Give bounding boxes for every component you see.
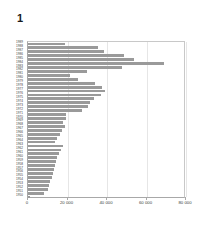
bar — [28, 54, 124, 57]
bar-row — [28, 129, 184, 132]
bar-row — [28, 62, 184, 65]
bar-row — [28, 94, 184, 97]
bar — [28, 133, 60, 136]
bar-row — [28, 90, 184, 93]
bar — [28, 196, 30, 199]
bar — [28, 113, 66, 116]
bar-row — [28, 125, 184, 128]
bar-row — [28, 58, 184, 61]
bar-row — [28, 184, 184, 187]
bar — [28, 97, 94, 100]
bar — [28, 184, 49, 187]
bar-row — [28, 137, 184, 140]
bar-row — [28, 54, 184, 57]
bar — [28, 43, 65, 46]
bar — [28, 58, 134, 61]
bar-row — [28, 117, 184, 120]
bar-row — [28, 74, 184, 77]
bar — [28, 180, 50, 183]
bar-row — [28, 149, 184, 152]
bar-row — [28, 86, 184, 89]
bar — [28, 50, 104, 53]
bar-row — [28, 156, 184, 159]
bar — [28, 172, 53, 175]
bar — [28, 105, 88, 108]
chart-figure: 1 19891988198719861985198419831982198119… — [0, 0, 200, 228]
plot-area — [27, 41, 185, 198]
bar — [28, 125, 65, 128]
bar-row — [28, 113, 184, 116]
bar — [28, 192, 44, 195]
bar — [28, 62, 164, 65]
bar — [28, 46, 98, 49]
bar-row — [28, 176, 184, 179]
bar — [28, 101, 90, 104]
bar — [28, 109, 82, 112]
x-tick-label: 60 000 — [139, 200, 152, 206]
bar-row — [28, 141, 184, 144]
bar — [28, 137, 57, 140]
x-tick-label: 0 — [26, 200, 28, 206]
bar-row — [28, 43, 184, 46]
bar-row — [28, 46, 184, 49]
bar-row — [28, 78, 184, 81]
bar — [28, 94, 101, 97]
bar-row — [28, 164, 184, 167]
bar-row — [28, 180, 184, 183]
bar — [28, 152, 59, 155]
bar — [28, 70, 87, 73]
bar — [28, 149, 61, 152]
bar-row — [28, 66, 184, 69]
bar — [28, 145, 63, 148]
x-tick-label: 80 000 — [178, 200, 191, 206]
bar — [28, 74, 70, 77]
bar-row — [28, 188, 184, 191]
bar-row — [28, 70, 184, 73]
bar-row — [28, 168, 184, 171]
bar-row — [28, 172, 184, 175]
y-axis-tick-labels: 1989198819871986198519841983198219811980… — [0, 41, 25, 198]
bar-row — [28, 152, 184, 155]
bar — [28, 82, 95, 85]
bar — [28, 117, 66, 120]
bar — [28, 188, 48, 191]
bar-row — [28, 133, 184, 136]
bar-series — [28, 42, 184, 197]
bar — [28, 168, 54, 171]
bar — [28, 121, 63, 124]
bar-row — [28, 109, 184, 112]
bar-row — [28, 82, 184, 85]
chart-title: 1 — [17, 12, 23, 24]
bar — [28, 66, 122, 69]
bar — [28, 129, 62, 132]
bar-row — [28, 145, 184, 148]
bar-row — [28, 192, 184, 195]
bar-row — [28, 121, 184, 124]
bar — [28, 141, 55, 144]
bar — [28, 160, 56, 163]
bar — [28, 90, 105, 93]
bar — [28, 176, 52, 179]
gridline — [186, 42, 187, 197]
x-axis-tick-labels: 020 00040 00060 00080 000 — [27, 200, 185, 212]
y-tick-label: 1950 — [16, 194, 23, 198]
bar-row — [28, 101, 184, 104]
bar-row — [28, 50, 184, 53]
x-tick-label: 40 000 — [99, 200, 112, 206]
bar — [28, 156, 57, 159]
bar — [28, 164, 55, 167]
x-tick-label: 20 000 — [60, 200, 73, 206]
bar-row — [28, 160, 184, 163]
bar — [28, 86, 102, 89]
bar — [28, 78, 78, 81]
bar-row — [28, 105, 184, 108]
bar-row — [28, 97, 184, 100]
